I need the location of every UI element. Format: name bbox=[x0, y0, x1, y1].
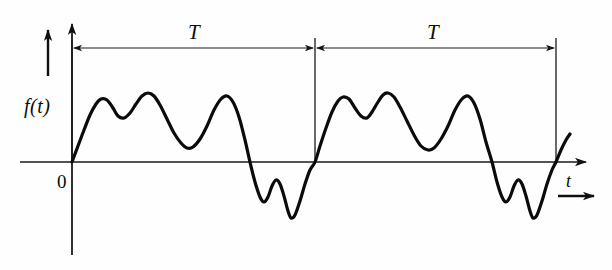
origin-label: 0 bbox=[57, 172, 67, 191]
period-label-first: T bbox=[188, 22, 200, 43]
x-axis-label: t bbox=[566, 172, 571, 190]
y-axis-label: f(t) bbox=[24, 96, 50, 116]
period-label-second: T bbox=[427, 22, 439, 43]
waveform-canvas bbox=[0, 0, 612, 270]
waveform-figure: f(t) 0 t T T bbox=[0, 0, 612, 270]
waveform-curve bbox=[72, 93, 570, 218]
